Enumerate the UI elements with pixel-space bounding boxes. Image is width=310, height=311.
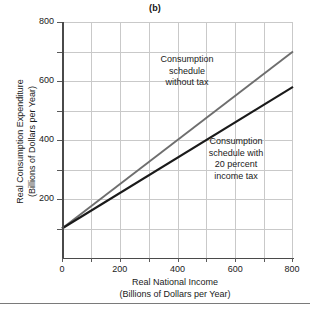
y-axis-line [62,22,64,259]
annotation-with-tax: Consumption schedule with 20 percent inc… [180,136,292,182]
y-axis-label: Real Consumption Expenditure (Billions o… [15,24,38,260]
x-axis-tick [206,258,207,262]
y-axis-label-main: Real Consumption Expenditure [15,24,27,260]
x-axis-tick [91,258,92,262]
x-tick-label-400: 400 [158,264,198,274]
y-axis-label-units: (Billions of Dollars per Year) [26,24,38,260]
chart-title: (b) [0,3,310,13]
x-tick-label-0: 0 [42,264,82,274]
annotation-without-tax-line-2: schedule [132,66,242,78]
plot-area: Consumption schedule without tax Consump… [62,22,293,258]
annotation-with-tax-line-4: income tax [180,171,292,183]
y-axis-tick [57,229,62,230]
annotation-with-tax-line-2: schedule with [180,148,292,160]
y-axis-tick [57,22,62,23]
x-axis-tick [120,258,121,262]
x-axis-label: Real National Income (Billions of Dollar… [40,277,310,300]
x-tick-label-800: 800 [272,264,310,274]
y-axis-tick [57,140,62,141]
y-axis-tick [57,111,62,112]
y-axis-tick [57,199,62,200]
annotation-without-tax-line-1: Consumption [132,54,242,66]
y-axis-tick [57,52,62,53]
x-axis-label-main: Real National Income [40,277,310,289]
x-axis-tick [292,258,293,262]
x-tick-label-200: 200 [100,264,140,274]
x-axis-tick [235,258,236,262]
x-axis-label-units: (Billions of Dollars per Year) [40,289,310,301]
annotation-with-tax-line-3: 20 percent [180,159,292,171]
annotation-without-tax-line-3: without tax [132,77,242,89]
bottom-divider [0,303,310,304]
x-axis-tick [264,258,265,262]
annotation-without-tax: Consumption schedule without tax [132,54,242,89]
x-axis-tick [149,258,150,262]
y-axis-tick [57,170,62,171]
x-axis-tick [62,258,63,262]
y-axis-tick [57,81,62,82]
x-axis-tick [178,258,179,262]
x-tick-label-600: 600 [215,264,255,274]
annotation-with-tax-line-1: Consumption [180,136,292,148]
figure-container: (b) Consumption schedule without tax [0,0,310,311]
